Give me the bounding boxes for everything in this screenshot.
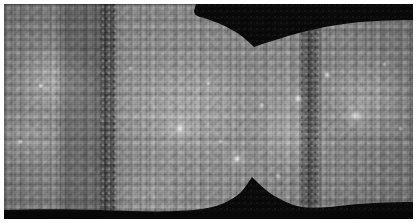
planetary-map-figure: Global photomosaic map of Mercury xyxy=(4,4,413,219)
figure-border xyxy=(4,4,413,219)
